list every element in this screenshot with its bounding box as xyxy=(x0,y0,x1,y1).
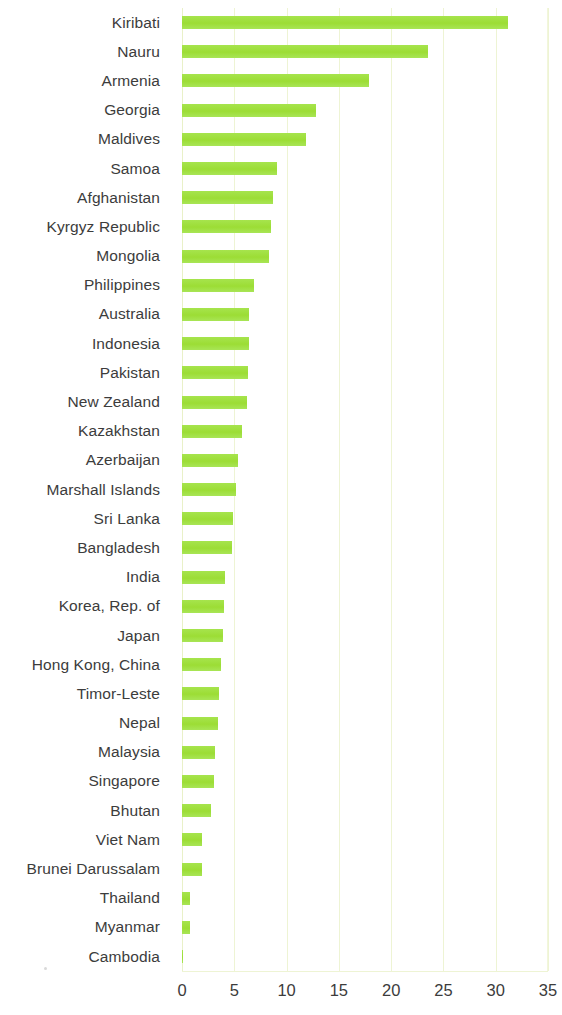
category-label: Australia xyxy=(99,305,160,323)
bar-row xyxy=(182,329,547,358)
gridline-35 xyxy=(548,8,549,971)
bar xyxy=(182,863,202,876)
bar-row xyxy=(182,767,547,796)
bar xyxy=(182,746,215,759)
bar-row xyxy=(182,154,547,183)
x-tick-label: 5 xyxy=(230,981,239,1000)
category-label: India xyxy=(126,568,160,586)
category-label-row: Hong Kong, China xyxy=(0,650,172,679)
category-label: Marshall Islands xyxy=(46,481,160,499)
bar xyxy=(182,600,224,613)
category-label: Philippines xyxy=(84,276,160,294)
bar xyxy=(182,162,277,175)
bar-row xyxy=(182,563,547,592)
bar xyxy=(182,512,233,525)
category-label-row: Bhutan xyxy=(0,796,172,825)
bar-row xyxy=(182,242,547,271)
category-label-row: Kiribati xyxy=(0,8,172,37)
category-label: Mongolia xyxy=(96,247,160,265)
bar xyxy=(182,541,232,554)
bar xyxy=(182,425,242,438)
bar-row xyxy=(182,300,547,329)
bar xyxy=(182,629,223,642)
bar-rows xyxy=(182,8,547,971)
category-label-row: Kyrgyz Republic xyxy=(0,212,172,241)
bar-row xyxy=(182,417,547,446)
category-label-row: Viet Nam xyxy=(0,825,172,854)
category-label-row: Thailand xyxy=(0,884,172,913)
bar-row xyxy=(182,475,547,504)
category-label-row: Maldives xyxy=(0,125,172,154)
bar-row xyxy=(182,271,547,300)
bar xyxy=(182,892,190,905)
category-label: Japan xyxy=(117,627,160,645)
category-label-row: Pakistan xyxy=(0,358,172,387)
category-label: Malaysia xyxy=(98,743,160,761)
x-tick-label: 0 xyxy=(177,981,186,1000)
x-axis-line xyxy=(182,971,548,972)
bar xyxy=(182,308,249,321)
bar xyxy=(182,950,183,963)
bar xyxy=(182,337,249,350)
bar xyxy=(182,366,248,379)
category-label-row: Korea, Rep. of xyxy=(0,592,172,621)
bar-row xyxy=(182,358,547,387)
category-label: Singapore xyxy=(88,772,160,790)
category-label: Kyrgyz Republic xyxy=(47,218,161,236)
category-label-row: Kazakhstan xyxy=(0,417,172,446)
category-label-row: Philippines xyxy=(0,271,172,300)
category-label: Nauru xyxy=(117,43,160,61)
category-label: Myanmar xyxy=(95,918,160,936)
x-tick-label: 20 xyxy=(382,981,400,1000)
category-label: Kazakhstan xyxy=(78,422,160,440)
category-label-row: Afghanistan xyxy=(0,183,172,212)
category-label: Cambodia xyxy=(89,948,160,966)
category-label-row: Japan xyxy=(0,621,172,650)
category-label: Korea, Rep. of xyxy=(59,597,160,615)
bar xyxy=(182,45,428,58)
x-tick-label: 15 xyxy=(330,981,348,1000)
category-label-row: Mongolia xyxy=(0,242,172,271)
bar xyxy=(182,279,254,292)
category-label-row: Armenia xyxy=(0,66,172,95)
bar-row xyxy=(182,709,547,738)
category-label-row: India xyxy=(0,563,172,592)
bar-row xyxy=(182,533,547,562)
category-label: Maldives xyxy=(98,130,160,148)
category-label: Samoa xyxy=(110,160,160,178)
horizontal-bar-chart: KiribatiNauruArmeniaGeorgiaMaldivesSamoa… xyxy=(0,0,562,1015)
bar-row xyxy=(182,884,547,913)
category-label: Afghanistan xyxy=(77,189,160,207)
x-axis: 05101520253035 xyxy=(182,971,548,1015)
category-label: Indonesia xyxy=(92,335,160,353)
category-label: Thailand xyxy=(100,889,160,907)
bar xyxy=(182,454,238,467)
bar-row xyxy=(182,796,547,825)
bar-row xyxy=(182,650,547,679)
bar-row xyxy=(182,125,547,154)
category-label: New Zealand xyxy=(68,393,160,411)
category-label-row: Singapore xyxy=(0,767,172,796)
x-tick-label: 35 xyxy=(539,981,557,1000)
category-label-row: Brunei Darussalam xyxy=(0,854,172,883)
bar-row xyxy=(182,854,547,883)
bar-row xyxy=(182,679,547,708)
x-tick-label: 25 xyxy=(434,981,452,1000)
category-axis-labels: KiribatiNauruArmeniaGeorgiaMaldivesSamoa… xyxy=(0,8,172,971)
bar xyxy=(182,250,269,263)
bar-row xyxy=(182,592,547,621)
bar xyxy=(182,16,508,29)
category-label-row: Sri Lanka xyxy=(0,504,172,533)
bar-row xyxy=(182,738,547,767)
x-tick-label: 30 xyxy=(487,981,505,1000)
category-label: Bhutan xyxy=(110,802,160,820)
category-label: Kiribati xyxy=(112,14,160,32)
category-label-row: Marshall Islands xyxy=(0,475,172,504)
category-label: Timor-Leste xyxy=(77,685,160,703)
bar-row xyxy=(182,504,547,533)
category-label: Nepal xyxy=(119,714,160,732)
category-label-row: Myanmar xyxy=(0,913,172,942)
category-label: Bangladesh xyxy=(77,539,160,557)
bar-row xyxy=(182,913,547,942)
bar-row xyxy=(182,37,547,66)
